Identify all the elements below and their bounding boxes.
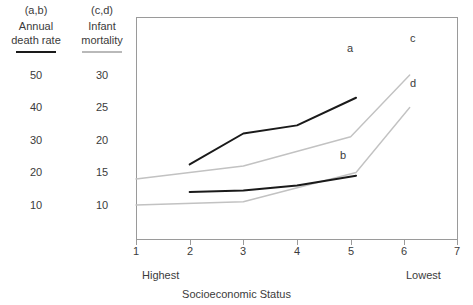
axis-ticks-cd: 30 25 20 15 10: [70, 0, 134, 240]
series-line-c: [136, 75, 410, 179]
axis-tick-cd-15: 15: [70, 167, 134, 178]
axis-column-right: (c,d) Infant mortality 30 25 20 15 10: [70, 0, 134, 53]
axis-tick-cd-30: 30: [70, 70, 134, 81]
series-line-d: [136, 108, 410, 206]
x-axis-title: Socioeconomic Status: [0, 289, 473, 300]
axis-tick-ab-40: 40: [4, 102, 68, 113]
axis-tick-ab-20: 20: [4, 167, 68, 178]
x-tick-label-4: 4: [287, 246, 307, 257]
axis-tick-cd-10: 10: [70, 200, 134, 211]
axis-tick-cd-25: 25: [70, 102, 134, 113]
x-tick-label-3: 3: [233, 246, 253, 257]
series-label-c: c: [410, 33, 416, 44]
axis-column-left: (a,b) Annual death rate 50 40 30 20 10: [4, 0, 68, 53]
x-end-label-lowest: Lowest: [406, 270, 441, 281]
chart-figure: (a,b) Annual death rate 50 40 30 20 10 (…: [0, 0, 473, 305]
x-tick-label-7: 7: [447, 246, 467, 257]
series-label-d: d: [410, 78, 416, 89]
x-tick-label-6: 6: [394, 246, 414, 257]
series-lines: [136, 17, 458, 240]
axis-tick-ab-10: 10: [4, 200, 68, 211]
series-line-a: [190, 98, 356, 165]
axis-tick-ab-50: 50: [4, 70, 68, 81]
series-label-b: b: [340, 150, 346, 161]
axis-tick-cd-20: 20: [70, 135, 134, 146]
x-tick-label-5: 5: [341, 246, 361, 257]
series-label-a: a: [347, 43, 353, 54]
dual-axis-scales: (a,b) Annual death rate 50 40 30 20 10 (…: [0, 0, 136, 240]
x-end-label-highest: Highest: [142, 270, 179, 281]
axis-tick-ab-30: 30: [4, 135, 68, 146]
x-tick-label-2: 2: [180, 246, 200, 257]
series-line-b: [190, 176, 356, 192]
x-axis-ticks: 1 2 3 4 5 6 7: [0, 240, 473, 248]
axis-ticks-ab: 50 40 30 20 10: [4, 0, 68, 240]
x-tick-label-1: 1: [126, 246, 146, 257]
